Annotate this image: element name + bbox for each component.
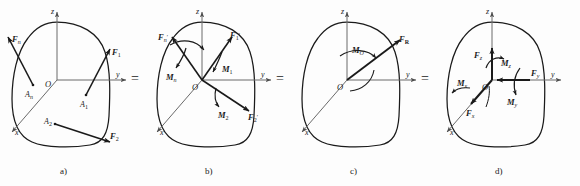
moment-label-MO-c: MO [351, 45, 365, 56]
axis-label-x-b: x [159, 128, 164, 137]
moment-label-Mz-d: Mz [500, 58, 512, 69]
equals-sign-1: = [131, 71, 139, 86]
body-outline-a [12, 22, 110, 147]
moment-label-Mn-b: Mn [165, 72, 177, 83]
axis-label-z-b: z [195, 7, 200, 16]
moment-label-M1-b: M1 [221, 64, 233, 75]
force-vector-F2-prime-b [202, 80, 249, 111]
force-label-Fy-d: Fy [530, 68, 540, 79]
body-outline-b [157, 22, 255, 147]
axis-label-x-c: x [304, 128, 309, 137]
force-label-F1-prime-b: F1′ [229, 30, 241, 41]
force-label-Fn-a: Fn [11, 34, 21, 45]
axis-label-y-d: y [550, 70, 555, 79]
equals-sign-2: = [276, 71, 284, 86]
panel-caption-d: d) [495, 166, 503, 176]
axis-label-x-a: x [14, 128, 19, 137]
panel-caption-a: a) [60, 166, 67, 176]
force-label-FR-c: FR [398, 34, 410, 45]
force-label-Fn-prime-b: Fn′ [157, 32, 169, 43]
force-reduction-figure: z y x O Fn An F1 A1 A2 F2 a) = [0, 0, 580, 186]
moment-label-M2-b: M2 [217, 110, 229, 121]
panel-c: z y x O FR MO c) [302, 7, 416, 176]
force-label-F2-a: F2 [109, 131, 119, 142]
equals-sign-3: = [421, 71, 429, 86]
panel-b: z y x O Fn′ Mn F1′ M1 M2 F2′ b) [157, 7, 271, 176]
panel-a: z y x O Fn An F1 A1 A2 F2 a) [8, 7, 126, 176]
moment-arc-Mn-b [170, 41, 204, 50]
origin-label-b: O [192, 82, 198, 92]
force-vector-F1-a [86, 49, 110, 95]
axis-label-z-c: z [340, 7, 345, 16]
axis-label-y-a: y [115, 70, 120, 79]
axis-label-y-b: y [260, 70, 265, 79]
force-label-Fz-d: Fz [473, 50, 483, 61]
axis-label-z-d: z [485, 7, 490, 16]
force-vector-F2-a [55, 124, 110, 142]
axis-label-y-c: y [405, 70, 410, 79]
moment-label-Mx-d: Mx [456, 78, 468, 89]
force-label-Fx-d: Fx [465, 108, 475, 119]
moment-arrow-Mx-d [452, 88, 470, 93]
panel-caption-c: c) [350, 166, 357, 176]
force-vector-Fn-prime-b [172, 37, 202, 80]
axis-label-x-d: x [449, 128, 454, 137]
panel-d: z y x O Fz Mz Fy My Fx Mx d) [447, 7, 561, 176]
force-label-F1-a: F1 [111, 47, 121, 58]
point-label-A1: A1 [79, 100, 88, 110]
body-outline-c [302, 22, 400, 147]
point-label-An: An [24, 90, 33, 100]
force-label-F2-prime-b: F2′ [247, 112, 259, 123]
moment-arrow-My-d [514, 68, 520, 95]
moment-label-My-d: My [506, 97, 518, 108]
panel-caption-b: b) [205, 166, 213, 176]
point-label-A2: A2 [43, 117, 52, 127]
axis-label-z-a: z [50, 7, 55, 16]
origin-label-a: O [45, 79, 51, 89]
origin-label-c: O [337, 82, 343, 92]
